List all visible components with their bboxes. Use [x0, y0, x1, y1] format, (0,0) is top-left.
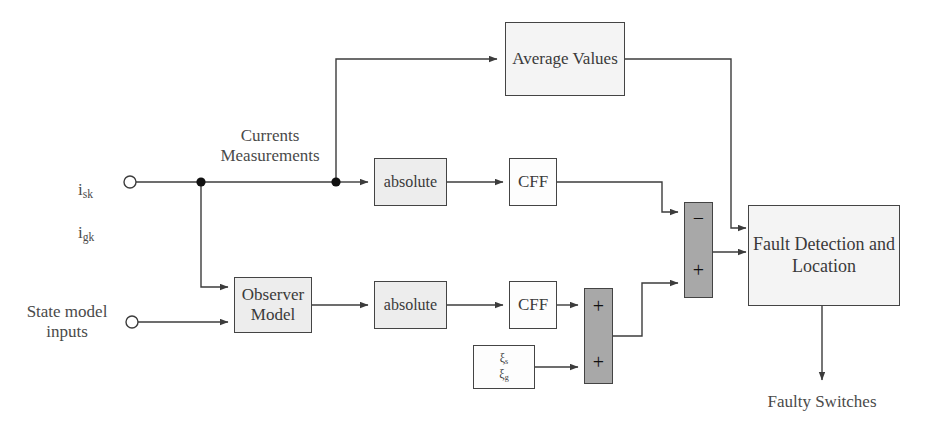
annotation-faulty-switches: Faulty Switches — [742, 392, 902, 412]
input-label-currents: isk igk — [78, 160, 130, 265]
wire-summer-lower-to-summer-upper — [612, 283, 678, 336]
summer-lower-plus-sign-top: + — [585, 295, 612, 319]
summer-upper-minus-sign: − — [685, 207, 712, 231]
summer-upper-plus-sign: + — [685, 259, 712, 283]
summer-lower-plus-sign-bottom: + — [585, 351, 612, 375]
wire-cfftop-to-summer-upper-minus — [557, 182, 678, 212]
summer-upper[interactable]: − + — [684, 202, 713, 298]
annotation-currents-measurements: Currents Measurements — [205, 126, 335, 167]
block-xi-gains[interactable]: ξs ξg — [473, 345, 535, 389]
input-label-state-model: State model inputs — [12, 302, 122, 343]
junction-dot-observer-branch — [196, 177, 205, 186]
junction-dot-average-branch — [331, 177, 340, 186]
block-absolute-top[interactable]: absolute — [374, 158, 447, 206]
block-observer-model[interactable]: Observer Model — [234, 277, 312, 333]
block-absolute-bottom[interactable]: absolute — [374, 281, 447, 329]
block-fault-detection-and-location[interactable]: Fault Detection and Location — [748, 205, 900, 306]
summer-lower[interactable]: + + — [584, 288, 613, 384]
wire-currents-to-observer — [201, 182, 228, 287]
block-diagram-canvas: isk igk State model inputs Currents Meas… — [0, 0, 939, 435]
terminal-state-model-input — [126, 316, 138, 328]
block-cff-top[interactable]: CFF — [509, 158, 557, 206]
block-cff-bottom[interactable]: CFF — [509, 281, 557, 329]
block-average-values[interactable]: Average Values — [505, 22, 625, 96]
